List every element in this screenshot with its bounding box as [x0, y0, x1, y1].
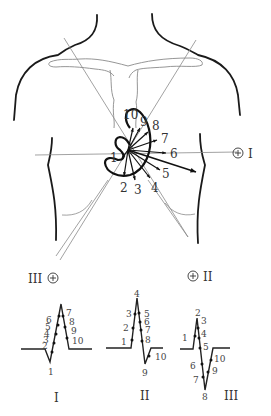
- vector-arrow-6-head: [162, 151, 166, 154]
- lead-ii-pt-4: 4: [134, 289, 140, 299]
- lead-iii-pt-1: 1: [182, 333, 188, 343]
- electrode-ii-label: II: [203, 270, 213, 284]
- lead-ii-pt-7: 7: [145, 325, 151, 335]
- electrode-lead-i: I: [233, 147, 253, 161]
- lead-iii-pt-7: 7: [193, 375, 199, 385]
- electrode-lead-iii: III: [28, 272, 58, 286]
- lead-iii-pt-10: 10: [214, 354, 226, 364]
- vector-label-4: 4: [151, 181, 159, 195]
- lead-iii-connector: [56, 180, 108, 256]
- lead-iii-label: III: [224, 389, 238, 403]
- vector-labels: 1 2 3 4 5 6 7 8 9 10: [110, 108, 178, 197]
- vector-label-3: 3: [134, 183, 142, 197]
- lead-iii-pt-3: 3: [201, 316, 207, 326]
- vector-label-8: 8: [152, 119, 160, 133]
- lead-iii-pt-8: 8: [202, 392, 208, 402]
- vector-label-9: 9: [140, 115, 148, 129]
- lead-i-pt-1: 1: [48, 367, 54, 377]
- lead-line-iii-axis: [64, 38, 188, 237]
- ecg-lead-iii: 1 2 3 4 5 6 7 8 9 10 III: [180, 308, 238, 403]
- lead-iii-pt-2: 2: [195, 308, 201, 318]
- lead-iii-pt-9: 9: [212, 366, 218, 376]
- lead-ii-pt-3: 3: [126, 309, 132, 319]
- lead-ii-pt-9: 9: [142, 368, 148, 378]
- mean-axis-arrow-head: [190, 168, 196, 172]
- lead-ii-label: II: [140, 389, 150, 403]
- lead-iii-pt-6: 6: [190, 361, 196, 371]
- lead-i-label: I: [54, 391, 59, 405]
- clavicle: [49, 58, 203, 78]
- lead-i-pt-10: 10: [72, 336, 84, 346]
- lead-iii-pt-4: 4: [201, 329, 207, 339]
- vector-arrow-7-head: [153, 140, 157, 143]
- vector-arrows: [122, 128, 196, 180]
- lead-ii-pt-10: 10: [155, 352, 167, 362]
- torso-right-outline: [152, 14, 240, 115]
- lead-i-pt-9: 9: [71, 326, 77, 336]
- vector-label-7: 7: [161, 132, 169, 146]
- vector-label-10: 10: [123, 108, 138, 122]
- lead-i-pt-2: 2: [42, 341, 48, 351]
- electrode-lead-ii: II: [188, 270, 213, 284]
- left-chest-curve: [62, 200, 92, 215]
- electrode-i-label: I: [248, 147, 253, 161]
- lead-ii-pt-2: 2: [123, 323, 129, 333]
- electrode-iii-label: III: [28, 272, 42, 286]
- ecg-lead-i: 6 5 4 3 2 1 7 8 9 10 I: [21, 304, 92, 405]
- torso-left-flank: [48, 138, 56, 240]
- right-chest-curve: [165, 203, 195, 215]
- vector-label-1: 1: [110, 151, 118, 165]
- lead-iii-pt-5: 5: [203, 342, 209, 352]
- lead-ii-pt-8: 8: [145, 335, 151, 345]
- ecg-lead-ii: 1 2 3 4 5 6 7 8 9 10 II: [106, 289, 167, 403]
- lead-ii-pt-1: 1: [121, 337, 127, 347]
- einthoven-diagram: I II III 1 2 3 4 5 6 7 8 9 10 6 5 4 3 2: [0, 0, 271, 416]
- vector-label-6: 6: [170, 147, 178, 161]
- vector-label-2: 2: [120, 181, 128, 195]
- sternum-left: [110, 70, 114, 128]
- vector-label-5: 5: [162, 167, 170, 181]
- torso-right-flank: [197, 134, 205, 243]
